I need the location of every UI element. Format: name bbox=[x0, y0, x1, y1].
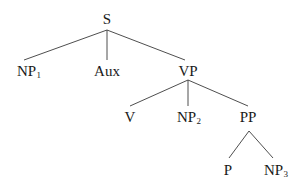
syntax-tree: S NP1 Aux VP V NP2 PP P NP3 bbox=[0, 0, 306, 193]
node-np3-label: NP bbox=[264, 162, 283, 178]
node-np2-subscript: 2 bbox=[197, 116, 202, 126]
node-v: V bbox=[125, 110, 136, 125]
node-np3: NP3 bbox=[264, 163, 288, 179]
node-s: S bbox=[103, 12, 111, 27]
edge-pp-np3 bbox=[249, 131, 273, 158]
edge-s-np1 bbox=[24, 30, 107, 60]
node-pp-label: PP bbox=[240, 109, 257, 125]
edge-s-vp bbox=[107, 30, 185, 60]
node-v-label: V bbox=[125, 109, 136, 125]
node-p-label: P bbox=[224, 162, 232, 178]
node-p: P bbox=[224, 163, 232, 178]
node-aux: Aux bbox=[94, 64, 120, 79]
node-np1-label: NP bbox=[17, 63, 36, 79]
node-np1: NP1 bbox=[17, 64, 41, 80]
node-np2: NP2 bbox=[177, 110, 201, 126]
node-s-label: S bbox=[103, 11, 111, 27]
tree-edges bbox=[0, 0, 306, 193]
edge-vp-pp bbox=[188, 80, 248, 106]
node-np1-subscript: 1 bbox=[37, 70, 42, 80]
node-vp: VP bbox=[178, 64, 197, 79]
node-aux-label: Aux bbox=[94, 63, 120, 79]
node-np2-label: NP bbox=[177, 109, 196, 125]
node-vp-label: VP bbox=[178, 63, 197, 79]
edge-pp-p bbox=[229, 131, 249, 158]
edge-vp-v bbox=[130, 80, 188, 106]
node-np3-subscript: 3 bbox=[284, 169, 289, 179]
node-pp: PP bbox=[240, 110, 257, 125]
